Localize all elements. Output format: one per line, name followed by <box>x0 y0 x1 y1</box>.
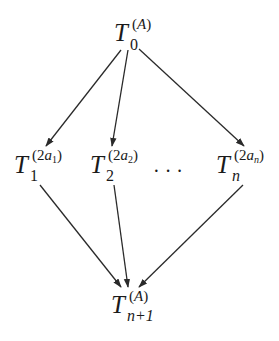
edge-top-to-midn <box>139 49 244 146</box>
edge-midn-to-bottom <box>139 185 243 287</box>
node-midn-base: T <box>216 152 230 177</box>
node-top-superscript: (A) <box>132 17 151 32</box>
node-mid2-subscript: 2 <box>106 168 114 184</box>
ellipsis: ··· <box>153 160 188 183</box>
node-mid1-base: T <box>14 152 28 177</box>
node-mid2-base: T <box>90 152 104 177</box>
node-mid1-superscript: (2a1) <box>32 148 62 163</box>
node-mid1: T (2a1) 1 <box>14 152 28 177</box>
node-bottom-subscript: n+1 <box>127 308 154 324</box>
node-top-subscript: 0 <box>130 37 138 53</box>
node-bottom: T (A) n+1 <box>111 292 125 317</box>
node-mid2: T (2a2) 2 <box>90 152 104 177</box>
node-midn-subscript: n <box>232 168 240 184</box>
edge-top-to-mid1 <box>46 50 121 146</box>
node-bottom-superscript: (A) <box>129 289 148 304</box>
edge-top-to-mid2 <box>112 50 128 146</box>
edge-mid1-to-bottom <box>40 185 121 287</box>
edge-mid2-to-bottom <box>114 185 128 287</box>
diagram-canvas: T (A) 0 T (2a1) 1 T (2a2) 2 ··· T (2an) … <box>0 0 279 341</box>
node-midn: T (2an) n <box>216 152 230 177</box>
node-midn-superscript: (2an) <box>234 148 264 163</box>
node-top-base: T <box>114 20 128 45</box>
node-top: T (A) 0 <box>114 20 128 45</box>
node-mid2-superscript: (2a2) <box>108 148 138 163</box>
node-mid1-subscript: 1 <box>30 168 38 184</box>
node-bottom-base: T <box>111 292 125 317</box>
